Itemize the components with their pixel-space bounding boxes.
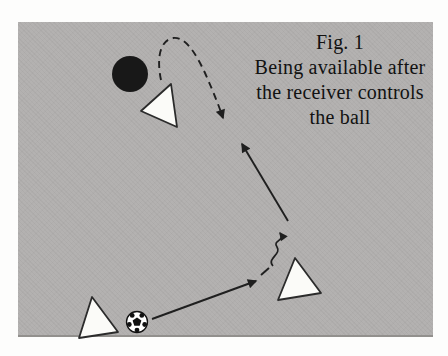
caption-line: the ball — [240, 105, 440, 130]
receiver-player-marker — [278, 258, 321, 300]
opponent-marker — [112, 56, 148, 92]
dribble-squiggle-arrow — [271, 233, 281, 266]
soccer-ball-patch — [139, 313, 144, 318]
control-dash — [261, 268, 269, 275]
caption-line: Being available after — [240, 55, 440, 80]
supporting-player-marker — [141, 84, 177, 127]
soccer-ball-patch — [127, 322, 132, 327]
soccer-ball-patch — [142, 322, 147, 327]
soccer-ball-icon — [127, 312, 148, 333]
soccer-ball-patch — [135, 328, 140, 333]
caption-line: the receiver controls — [240, 80, 440, 105]
figure-caption: Fig. 1 Being available after the receive… — [240, 30, 440, 130]
soccer-ball-patch — [130, 313, 135, 318]
figure-number: Fig. 1 — [240, 30, 440, 55]
passer-player-marker — [79, 297, 118, 338]
forward-pass-arrow — [242, 144, 288, 221]
figure-page: Fig. 1 Being available after the receive… — [0, 0, 448, 356]
pass-arrow — [152, 281, 256, 319]
